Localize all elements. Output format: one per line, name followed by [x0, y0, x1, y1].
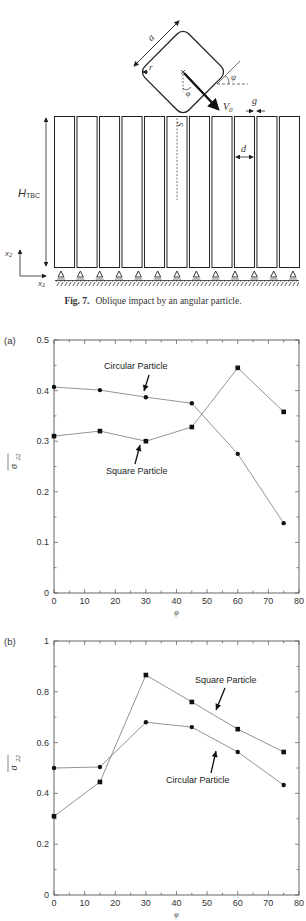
y-tick-label: 0.4: [36, 386, 49, 396]
square-marker: [144, 439, 149, 444]
support-triangles: [55, 271, 299, 281]
panel-label: (a): [4, 335, 16, 346]
circle-marker: [281, 783, 285, 787]
support-triangle-icon: [135, 271, 141, 277]
circle-marker: [190, 725, 194, 729]
x-tick-label: 40: [171, 898, 181, 908]
x-tick-label: 80: [294, 596, 304, 606]
caption-label: Fig. 7.: [64, 296, 89, 306]
series-line-square-particle: [54, 368, 284, 441]
tbc-column: [144, 117, 164, 268]
annotation-circular-particle-a: Circular Particle: [104, 361, 168, 371]
circle-marker: [281, 521, 285, 525]
psi-arc: [225, 76, 229, 84]
y-axis-label: σ22: [8, 453, 22, 471]
circle-marker: [236, 750, 240, 754]
support-triangle-icon: [174, 271, 180, 277]
support-triangle-icon: [213, 271, 219, 277]
label-x2: x2: [4, 249, 13, 258]
x-tick-label: 20: [110, 898, 120, 908]
support-triangle-icon: [232, 271, 238, 277]
y-tick-label: 0.2: [36, 487, 49, 497]
x-tick-label: 60: [233, 898, 243, 908]
x-axis-label: φ: [174, 910, 179, 919]
y-tick-label: 0.1: [36, 537, 49, 547]
label-htbc: HTBC: [18, 187, 40, 199]
square-marker: [190, 700, 195, 705]
y-tick-label: 0.6: [36, 738, 49, 748]
tbc-column: [212, 117, 232, 268]
square-marker: [235, 727, 240, 732]
circle-marker: [52, 766, 56, 770]
label-x1: x1: [37, 279, 45, 288]
square-marker: [52, 434, 57, 439]
x-tick-label: 70: [263, 596, 273, 606]
square-marker: [281, 410, 286, 415]
label-g: g: [252, 95, 257, 106]
panel-label: (b): [4, 636, 16, 647]
x-tick-label: 70: [263, 898, 273, 908]
support-triangle-icon: [58, 271, 64, 277]
label-psi: ψ: [231, 73, 237, 82]
square-marker: [98, 429, 103, 434]
x-tick-label: 60: [233, 596, 243, 606]
y-tick-label: 0.4: [36, 788, 49, 798]
tbc-column: [99, 117, 119, 268]
x-tick-label: 0: [51, 898, 56, 908]
x-tick-label: 50: [202, 596, 212, 606]
tbc-column: [279, 117, 299, 268]
tbc-column: [77, 117, 97, 268]
figure-caption: Fig. 7.Oblique impact by an angular part…: [0, 296, 306, 306]
square-marker: [52, 814, 57, 819]
x-tick-label: 10: [80, 898, 90, 908]
x-tick-label: 10: [80, 596, 90, 606]
plot-frame: [54, 340, 299, 593]
svg-text:σ: σ: [8, 463, 19, 469]
square-marker: [190, 425, 195, 430]
y-tick-label: 0.8: [36, 687, 49, 697]
annotation-arrow-circular-a: [144, 375, 149, 391]
support-triangle-icon: [77, 271, 83, 277]
chart-a: 0102030405060708000.10.20.30.40.5φσ22(a): [4, 335, 304, 617]
svg-text:22: 22: [14, 453, 22, 461]
x-tick-label: 80: [294, 898, 304, 908]
y-tick-label: 0.5: [36, 335, 49, 345]
series-line-circular-particle: [54, 722, 284, 785]
x-tick-label: 50: [202, 898, 212, 908]
ground-hatch: [55, 281, 299, 286]
label-phi: φ: [186, 89, 191, 98]
support-triangle-icon: [290, 271, 296, 277]
tbc-column: [234, 117, 254, 268]
square-marker: [235, 366, 240, 371]
y-tick-label: 0: [44, 588, 49, 598]
y-tick-label: 1: [44, 636, 49, 646]
annotation-square-particle-a: Square Particle: [106, 466, 168, 476]
support-triangle-icon: [271, 271, 277, 277]
series-line-square-particle: [54, 675, 284, 816]
square-marker: [98, 780, 103, 785]
x-tick-label: 40: [171, 596, 181, 606]
support-triangle-icon: [155, 271, 161, 277]
y-tick-label: 0.2: [36, 839, 49, 849]
circle-marker: [52, 385, 56, 389]
circle-marker: [98, 765, 102, 769]
series-line-circular-particle: [54, 387, 284, 523]
oblique-impact-diagram: a r φ V0 ψ g S d HTBC x2 x1: [0, 0, 306, 300]
tbc-column: [55, 117, 75, 268]
dimension-a-line: [134, 21, 179, 66]
label-s: S: [175, 122, 185, 127]
circle-marker: [98, 388, 102, 392]
tbc-column: [189, 117, 209, 268]
square-marker: [281, 750, 286, 755]
support-triangle-icon: [251, 271, 257, 277]
x-axis-label: φ: [174, 608, 179, 617]
x-tick-label: 20: [110, 596, 120, 606]
annotation-arrow-square-a: [135, 445, 140, 464]
chart-b: 0102030405060708000.20.40.60.81φσ22(b): [4, 636, 304, 919]
caption-text: Oblique impact by an angular particle.: [95, 296, 241, 306]
circle-marker: [236, 452, 240, 456]
svg-text:σ: σ: [8, 764, 19, 770]
label-r: r: [149, 62, 153, 72]
label-a: a: [145, 32, 156, 43]
label-v0: V0: [223, 101, 233, 114]
